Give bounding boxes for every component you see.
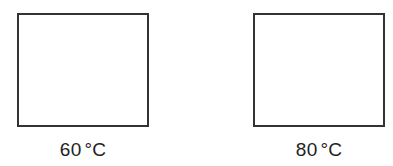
temperature-unit: °C	[84, 139, 106, 160]
temperature-label-80c: 80°C	[253, 139, 385, 161]
empty-box-60c	[17, 13, 149, 127]
panel-60c: 60°C	[17, 13, 149, 127]
temperature-value: 80	[296, 139, 318, 160]
temperature-value: 60	[60, 139, 82, 160]
temperature-unit: °C	[320, 139, 342, 160]
empty-box-80c	[253, 13, 385, 127]
temperature-label-60c: 60°C	[17, 139, 149, 161]
panel-80c: 80°C	[253, 13, 385, 127]
